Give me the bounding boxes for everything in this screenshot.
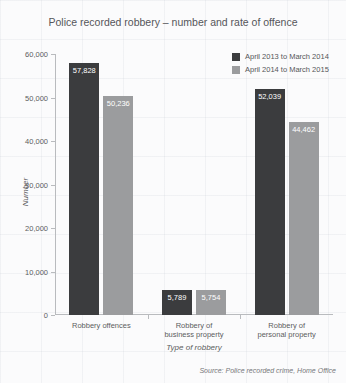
y-axis-tick [51,185,55,186]
y-axis-tick [51,272,55,273]
y-axis-line [55,54,56,315]
bar: 52,039 [255,89,285,315]
bar: 5,789 [162,290,192,315]
x-axis-tick [148,315,149,319]
bar-value-label: 5,789 [162,293,192,302]
x-axis-category-label: Robbery offences [55,321,148,330]
y-axis-tick [51,54,55,55]
bar-value-label: 5,754 [196,293,226,302]
plot-area: 010,00020,00030,00040,00050,00060,000 57… [55,54,333,315]
y-axis-tick-label: 0 [44,311,48,320]
x-axis-tick [240,315,241,319]
bar-value-label: 57,828 [69,66,99,75]
source-note: Source: Police recorded crime, Home Offi… [199,367,336,374]
chart-title: Police recorded robbery – number and rat… [0,16,346,28]
y-axis-tick-label: 40,000 [25,137,48,146]
y-axis-tick [51,228,55,229]
y-axis-tick-label: 50,000 [25,93,48,102]
y-axis-tick-label: 20,000 [25,224,48,233]
bar-chart: Police recorded robbery – number and rat… [0,0,346,383]
bar: 5,754 [196,290,226,315]
bar: 44,462 [289,122,319,315]
bar: 57,828 [69,63,99,315]
bar-value-label: 52,039 [255,92,285,101]
bar-value-label: 44,462 [289,125,319,134]
y-axis-tick [51,315,55,316]
x-axis-category-label: Robbery ofbusiness property [148,321,241,340]
y-axis-tick-label: 60,000 [25,50,48,59]
x-axis-category-label: Robbery ofpersonal property [240,321,333,340]
bar: 50,236 [103,96,133,315]
bar-value-label: 50,236 [103,99,133,108]
y-axis-tick-label: 10,000 [25,267,48,276]
y-axis-tick-label: 30,000 [25,180,48,189]
y-axis-tick [51,141,55,142]
y-axis-tick [51,98,55,99]
x-axis-title: Type of robbery [55,343,333,352]
